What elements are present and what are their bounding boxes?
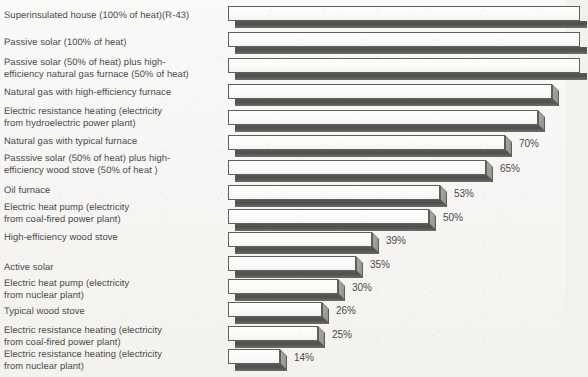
bar-front-face bbox=[228, 232, 372, 247]
category-label: Electric heat pump (electricity from coa… bbox=[4, 201, 220, 224]
bar-front-face bbox=[228, 326, 318, 341]
bar-front-face bbox=[228, 6, 580, 21]
bar-shadow-face bbox=[235, 364, 287, 371]
bar bbox=[228, 326, 326, 348]
bar-value-label: 25% bbox=[332, 328, 352, 341]
bar-shadow-face bbox=[235, 247, 379, 254]
bar-front-face bbox=[228, 302, 322, 317]
category-label: Electric resistance heating (electricity… bbox=[4, 348, 220, 371]
bar-value-label: 39% bbox=[386, 234, 406, 247]
category-label: Active solar bbox=[4, 261, 220, 273]
bar-value-label: 53% bbox=[454, 187, 474, 200]
category-label: Electric heat pump (electricity from nuc… bbox=[4, 277, 220, 300]
bar bbox=[228, 32, 588, 54]
bar-shadow-face bbox=[235, 99, 559, 106]
bar bbox=[228, 302, 330, 324]
bar-value-label: 30% bbox=[352, 281, 372, 294]
bar-shadow-face bbox=[235, 21, 587, 28]
bar bbox=[228, 279, 346, 301]
bar bbox=[228, 185, 448, 207]
bar-front-face bbox=[228, 110, 538, 125]
bar-shadow-face bbox=[235, 317, 329, 324]
category-label: Passive solar (50% of heat) plus high- e… bbox=[4, 56, 220, 79]
bar-value-label: 65% bbox=[500, 162, 520, 175]
bar-shadow-face bbox=[235, 125, 545, 132]
bar bbox=[228, 84, 560, 106]
bar-front-face bbox=[228, 58, 580, 73]
bar-shadow-face bbox=[235, 271, 363, 278]
bar-shadow-face bbox=[235, 73, 587, 80]
bar bbox=[228, 232, 380, 254]
category-label: Passive solar (100% of heat) bbox=[4, 36, 220, 48]
bar-shadow-face bbox=[235, 175, 493, 182]
bar-shadow-face bbox=[235, 200, 447, 207]
bar-shadow-face bbox=[235, 341, 325, 348]
bar-shadow-face bbox=[235, 47, 587, 54]
bar-front-face bbox=[228, 135, 505, 150]
bar bbox=[228, 6, 588, 28]
bar-value-label: 70% bbox=[519, 137, 539, 150]
bar-front-face bbox=[228, 209, 429, 224]
bar bbox=[228, 135, 513, 157]
category-label: High-efficiency wood stove bbox=[4, 231, 220, 243]
category-label: Natural gas with high-efficiency furnace bbox=[4, 86, 220, 98]
bar-front-face bbox=[228, 279, 338, 294]
bar-front-face bbox=[228, 32, 580, 47]
bar bbox=[228, 209, 437, 231]
bar bbox=[228, 110, 546, 132]
bar bbox=[228, 58, 588, 80]
bar-value-label: 26% bbox=[336, 304, 356, 317]
bar-front-face bbox=[228, 160, 486, 175]
bar-front-face bbox=[228, 256, 356, 271]
bar-front-face bbox=[228, 84, 552, 99]
bar bbox=[228, 349, 288, 371]
bar-shadow-face bbox=[235, 224, 436, 231]
bar-shadow-face bbox=[235, 294, 345, 301]
category-label: Electric resistance heating (electricity… bbox=[4, 324, 220, 347]
bar-value-label: 14% bbox=[294, 351, 314, 364]
category-label: Superinsulated house (100% of heat)(R-43… bbox=[4, 9, 220, 21]
bar-front-face bbox=[228, 185, 440, 200]
bar-value-label: 35% bbox=[370, 258, 390, 271]
bar-value-label: 50% bbox=[443, 211, 463, 224]
category-label: Natural gas with typical furnace bbox=[4, 135, 220, 147]
category-label: Electric resistance heating (electricity… bbox=[4, 105, 220, 128]
bar-front-face bbox=[228, 349, 280, 364]
category-label: Passsive solar (50% of heat) plus high- … bbox=[4, 152, 220, 175]
category-label: Oil furnace bbox=[4, 184, 220, 196]
category-label: Typical wood stove bbox=[4, 305, 220, 317]
bar bbox=[228, 256, 364, 278]
bar bbox=[228, 160, 494, 182]
bar-shadow-face bbox=[235, 150, 512, 157]
